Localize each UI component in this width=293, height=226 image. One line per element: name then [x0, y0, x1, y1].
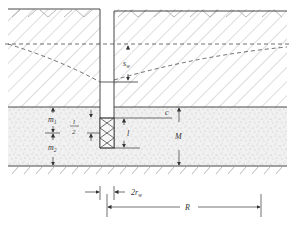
- label-l-half-den: 2: [72, 128, 76, 136]
- well-diameter-dimension: 2rw: [85, 186, 142, 200]
- label-M: M: [174, 132, 183, 141]
- label-l-half-num: l: [73, 118, 75, 126]
- radius-of-influence-dimension: R: [107, 194, 261, 217]
- label-c: c: [165, 108, 169, 117]
- well-diagram: sw c l l 2 m1 m2 M 2rw: [0, 0, 293, 226]
- label-2rw: 2rw: [131, 188, 142, 198]
- upper-soil-layer: [8, 9, 287, 107]
- label-R: R: [184, 203, 190, 212]
- well-screen: [100, 118, 114, 148]
- lower-confining-layer: [12, 167, 282, 174]
